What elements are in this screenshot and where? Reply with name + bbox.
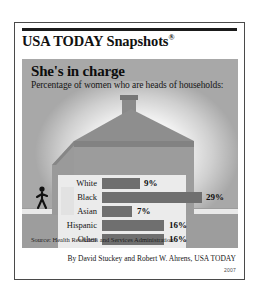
chart-row: Hispanic 16% bbox=[60, 219, 228, 232]
byline: By David Stuckey and Robert W. Ahrens, U… bbox=[67, 254, 236, 263]
masthead-brand: USA TODAY Snapshots® bbox=[22, 33, 174, 50]
snapshot-panel: White 9% Black 29% Asian bbox=[22, 59, 238, 248]
bar-track: 9% bbox=[102, 177, 228, 190]
snapshot-card: USA TODAY Snapshots® bbox=[14, 22, 245, 280]
bar-value-asian: 7% bbox=[137, 205, 151, 218]
bar-black bbox=[102, 192, 202, 203]
year-mark: 2007 bbox=[224, 267, 236, 273]
bar-track: 29% bbox=[102, 191, 228, 204]
masthead: USA TODAY Snapshots® bbox=[15, 23, 244, 59]
bar-label-hispanic: Hispanic bbox=[60, 219, 102, 232]
snapshot-page: USA TODAY Snapshots® bbox=[0, 0, 260, 298]
pedestrian-icon bbox=[34, 186, 50, 210]
bar-track: 7% bbox=[102, 205, 228, 218]
page-subtitle: Percentage of women who are heads of hou… bbox=[31, 80, 223, 90]
source-note: Source: Health Resources and Services Ad… bbox=[31, 236, 173, 243]
bar-track: 16% bbox=[102, 219, 228, 232]
bar-label-black: Black bbox=[60, 191, 102, 204]
bar-asian bbox=[102, 206, 132, 217]
masthead-brand-text: USA TODAY Snapshots bbox=[22, 33, 168, 49]
bar-label-white: White bbox=[60, 177, 102, 190]
bar-value-hispanic: 16% bbox=[169, 219, 187, 232]
bar-hispanic bbox=[102, 220, 164, 231]
page-title: She's in charge bbox=[31, 63, 125, 80]
chart-row: White 9% bbox=[60, 177, 228, 190]
masthead-rule bbox=[22, 28, 237, 31]
bar-white bbox=[102, 178, 140, 189]
registered-mark-icon: ® bbox=[168, 33, 174, 42]
bar-label-asian: Asian bbox=[60, 205, 102, 218]
bar-value-white: 9% bbox=[144, 177, 158, 190]
chart-row: Black 29% bbox=[60, 191, 228, 204]
chart-row: Asian 7% bbox=[60, 205, 228, 218]
bar-value-black: 29% bbox=[206, 191, 224, 204]
